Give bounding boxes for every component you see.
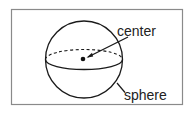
sphere-label: sphere <box>124 87 167 103</box>
sphere-diagram: center sphere <box>0 0 190 113</box>
center-dot <box>81 57 86 62</box>
center-label: center <box>117 23 156 39</box>
